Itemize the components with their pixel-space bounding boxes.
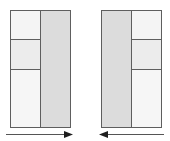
arrow-right-icon (0, 128, 80, 141)
right-cell-bottom (132, 70, 161, 127)
right-cell-top (132, 11, 161, 40)
left-layout-panel (10, 10, 71, 128)
left-cell-middle (11, 40, 41, 70)
left-cell-bottom (11, 70, 41, 127)
left-column-tall (41, 11, 70, 127)
right-cell-middle (132, 40, 161, 70)
right-layout-panel (101, 10, 162, 128)
arrow-left-icon (95, 128, 170, 141)
left-cell-top (11, 11, 41, 40)
right-column-tall (102, 11, 132, 127)
